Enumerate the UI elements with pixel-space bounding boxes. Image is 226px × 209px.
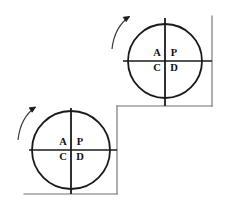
upper-circle-figure: A P C D (112, 17, 212, 107)
lower-label-top-right: P (77, 136, 84, 147)
lower-label-bottom-right: D (76, 151, 84, 162)
lower-arrow-arc (18, 107, 36, 140)
diagram-canvas: A P C D A P C D (0, 0, 226, 209)
upper-label-bottom-right: D (170, 62, 178, 73)
upper-rotation-arrow-icon (112, 17, 130, 50)
upper-label-top-left: A (153, 47, 161, 58)
rotating-circles-diagram: A P C D A P C D (0, 0, 226, 209)
stepped-baseline-frame (24, 16, 212, 194)
lower-label-bottom-left: C (59, 151, 67, 162)
lower-label-top-left: A (59, 136, 67, 147)
upper-arrow-arc (112, 17, 130, 50)
upper-label-top-right: P (171, 47, 178, 58)
lower-rotation-arrow-icon (18, 107, 36, 140)
lower-circle-figure: A P C D (18, 107, 117, 194)
upper-label-bottom-left: C (153, 62, 161, 73)
